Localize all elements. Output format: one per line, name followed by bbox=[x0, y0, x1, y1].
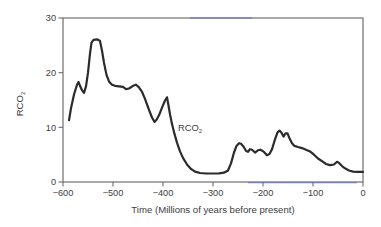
y-axis-title: RCO2 bbox=[14, 92, 26, 117]
x-axis-title: Time (Millions of years before present) bbox=[131, 204, 294, 215]
y-tick-label: 20 bbox=[46, 68, 56, 78]
x-tick-label: −100 bbox=[303, 188, 324, 198]
y-tick-label: 10 bbox=[46, 123, 56, 133]
x-tick-label: −300 bbox=[203, 188, 224, 198]
x-tick-label: 0 bbox=[360, 188, 365, 198]
curve-annotation: RCO2 bbox=[178, 122, 202, 134]
x-tick-label: −500 bbox=[103, 188, 124, 198]
rco2-chart-figure: −600−500−400−300−200−10000102030Time (Mi… bbox=[0, 0, 381, 227]
x-tick-label: −200 bbox=[253, 188, 274, 198]
x-tick-label: −400 bbox=[153, 188, 174, 198]
y-tick-label: 0 bbox=[51, 177, 56, 187]
x-tick-label: −600 bbox=[53, 188, 74, 198]
chart-svg: −600−500−400−300−200−10000102030Time (Mi… bbox=[0, 0, 381, 227]
y-tick-label: 30 bbox=[46, 13, 56, 23]
rco2-curve bbox=[69, 39, 363, 173]
